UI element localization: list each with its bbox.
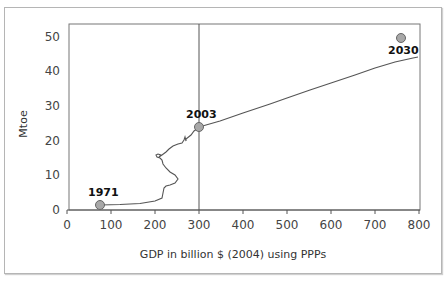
x-tick-label: 600 (320, 218, 343, 232)
x-tick-label: 800 (408, 218, 431, 232)
y-tick-label: 30 (45, 99, 60, 113)
x-tick-label: 700 (364, 218, 387, 232)
marker-2030 (397, 34, 406, 43)
chart-svg: 0 100 200 300 400 500 600 700 800 0 10 2… (0, 0, 444, 284)
x-tick-label: 100 (100, 218, 123, 232)
label-2003: 2003 (186, 108, 217, 121)
label-2030: 2030 (388, 44, 419, 57)
y-tick-label: 10 (45, 168, 60, 182)
data-line-projection (199, 57, 418, 127)
x-tick-label: 400 (232, 218, 255, 232)
y-tick-label: 20 (45, 134, 60, 148)
x-tick-label: 500 (276, 218, 299, 232)
x-tick-label: 0 (63, 218, 71, 232)
y-axis-label: Mtoe (17, 110, 30, 138)
x-axis-label: GDP in billion $ (2004) using PPPs (140, 248, 327, 261)
plot-area (69, 24, 420, 210)
label-1971: 1971 (88, 186, 119, 199)
y-tick-label: 50 (45, 30, 60, 44)
x-tick-label: 300 (188, 218, 211, 232)
y-tick-label: 0 (52, 203, 60, 217)
x-ticks (67, 210, 419, 214)
marker-2003 (195, 123, 204, 132)
x-tick-label: 200 (144, 218, 167, 232)
y-tick-label: 40 (45, 64, 60, 78)
marker-1971 (96, 201, 105, 210)
